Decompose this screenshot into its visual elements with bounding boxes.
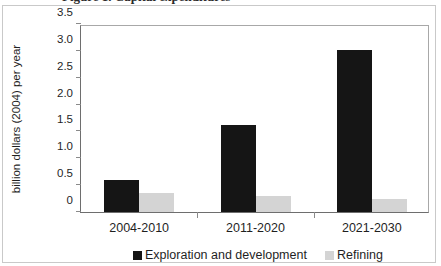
plot-area: 00.51.01.52.02.53.03.5 2004-20102011-202…: [80, 25, 429, 213]
y-axis-tick: [76, 104, 81, 105]
legend-label: Exploration and development: [145, 249, 307, 262]
y-axis-tick: [76, 23, 81, 24]
x-axis-category-label: 2004-2010: [109, 221, 169, 235]
x-axis-category-label: 2021-2030: [342, 221, 402, 235]
bar: [139, 193, 174, 212]
clipped-title-text: Figure 1. Capital expenditures: [62, 0, 231, 4]
y-axis-tick: [76, 77, 81, 78]
y-axis-tick: [76, 50, 81, 51]
legend-swatch-icon: [325, 251, 334, 260]
y-axis-tick-label: 0: [67, 194, 73, 206]
x-axis-tick: [314, 212, 315, 218]
bar: [256, 196, 291, 212]
figure-frame: billion dollars (2004) per year 00.51.01…: [2, 5, 436, 263]
y-axis-tick-label: 3.0: [57, 33, 73, 45]
y-axis-tick: [76, 211, 81, 212]
legend-swatch-icon: [133, 251, 142, 260]
y-axis-tick: [76, 130, 81, 131]
y-axis-title: billion dollars (2004) per year: [10, 45, 22, 193]
bar: [372, 199, 407, 212]
y-axis-tick-label: 2.0: [57, 87, 73, 99]
y-axis-tick-label: 0.5: [57, 167, 73, 179]
legend-item[interactable]: Refining: [325, 249, 383, 262]
chart-legend: Exploration and developmentRefining: [80, 249, 429, 265]
y-axis-tick-label: 1.5: [57, 113, 73, 125]
x-axis-category-label: 2011-2020: [226, 221, 285, 235]
x-axis-tick: [197, 212, 198, 218]
bar: [337, 50, 372, 212]
bar: [221, 125, 256, 212]
legend-item[interactable]: Exploration and development: [133, 249, 307, 262]
y-axis-tick-label: 1.0: [57, 140, 73, 152]
legend-label: Refining: [337, 249, 383, 262]
y-axis-tick: [76, 157, 81, 158]
y-axis-tick-label: 2.5: [57, 60, 73, 72]
y-axis-tick: [76, 184, 81, 185]
y-axis-tick-label: 3.5: [57, 6, 73, 18]
bar: [104, 180, 139, 212]
clipped-title-sliver: Figure 1. Capital expenditures: [0, 0, 441, 4]
